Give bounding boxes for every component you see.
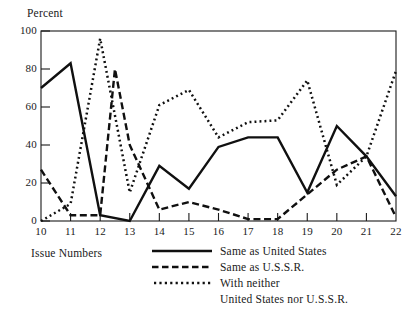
x-tick-label: 18 — [268, 225, 288, 237]
x-tick-label: 19 — [297, 225, 317, 237]
y-tick-label: 20 — [21, 176, 37, 188]
series-line — [41, 63, 396, 221]
legend-label-same-as-ussr: Same as U.S.S.R. — [214, 261, 304, 273]
x-tick-label: 20 — [327, 225, 347, 237]
legend-label-with-neither: With neither — [214, 277, 280, 289]
x-tick-label: 17 — [238, 225, 258, 237]
x-tick-label: 22 — [386, 225, 406, 237]
y-axis-ticks — [41, 31, 50, 221]
x-tick-label: 11 — [61, 225, 81, 237]
legend-label-with-neither-continued: United States nor U.S.S.R. — [150, 291, 412, 307]
y-tick-label: 60 — [21, 100, 37, 112]
y-tick-label: 80 — [21, 62, 37, 74]
series-layer — [41, 39, 396, 221]
legend-item-same-as-united-states: Same as United States — [150, 243, 412, 259]
x-axis-title: Issue Numbers — [31, 247, 102, 259]
legend-swatch-dashed-icon — [150, 260, 214, 274]
x-tick-label: 16 — [209, 225, 229, 237]
x-tick-label: 13 — [120, 225, 140, 237]
legend-swatch-dotted-icon — [150, 276, 214, 290]
legend-item-same-as-ussr: Same as U.S.S.R. — [150, 259, 412, 275]
y-tick-label: 100 — [13, 24, 37, 36]
x-tick-label: 14 — [149, 225, 169, 237]
chart-container: Percent 020406080100 1011121314151617181… — [0, 0, 418, 309]
x-tick-label: 12 — [90, 225, 110, 237]
legend-swatch-solid-icon — [150, 244, 214, 258]
series-line — [41, 39, 396, 221]
x-tick-label: 10 — [31, 225, 51, 237]
series-line — [41, 69, 396, 219]
plot-frame — [41, 31, 396, 221]
x-tick-label: 15 — [179, 225, 199, 237]
legend-item-with-neither: With neither — [150, 275, 412, 291]
x-tick-label: 21 — [356, 225, 376, 237]
chart-legend: Same as United States Same as U.S.S.R. W… — [150, 243, 412, 307]
legend-label-same-as-united-states: Same as United States — [214, 245, 327, 257]
y-tick-label: 40 — [21, 138, 37, 150]
